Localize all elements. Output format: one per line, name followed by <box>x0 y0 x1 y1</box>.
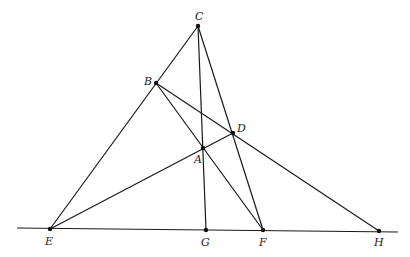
segment-CF <box>198 26 263 230</box>
points-group <box>48 24 381 233</box>
point-label-H: H <box>373 236 384 249</box>
segment-CG <box>198 26 206 230</box>
segment-BF <box>156 83 263 230</box>
point-D <box>231 131 235 135</box>
point-C <box>196 24 200 28</box>
point-label-B: B <box>143 75 152 88</box>
point-label-G: G <box>201 236 210 249</box>
geometry-diagram: CBDAEGFH <box>0 0 410 257</box>
point-H <box>377 229 381 233</box>
point-E <box>48 227 52 231</box>
point-B <box>154 81 158 85</box>
point-label-F: F <box>258 236 267 249</box>
labels-group: CBDAEGFH <box>44 10 384 249</box>
segments-group <box>50 26 379 231</box>
segment-EC <box>50 26 198 229</box>
point-G <box>204 228 208 232</box>
point-label-A: A <box>193 153 202 166</box>
point-label-D: D <box>236 122 246 135</box>
segment-BH <box>156 83 379 231</box>
point-F <box>261 228 265 232</box>
point-label-C: C <box>195 10 204 23</box>
point-label-E: E <box>44 235 53 248</box>
point-A <box>201 146 205 150</box>
